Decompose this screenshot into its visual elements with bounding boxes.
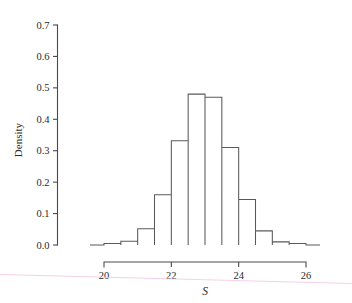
y-tick-label: 0.1 — [36, 208, 49, 219]
y-axis-title: Density — [12, 122, 24, 157]
x-tick-label: 20 — [99, 270, 110, 281]
x-tick-label: 24 — [233, 270, 244, 281]
x-axis-title: S — [202, 285, 208, 297]
y-tick-label: 0.2 — [36, 177, 49, 188]
x-axis-tick-labels: 20222426 — [99, 270, 312, 281]
y-tick-label: 0.0 — [36, 240, 49, 251]
histogram-bars — [90, 94, 320, 245]
y-axis-ticks — [53, 25, 58, 245]
x-axis-line — [104, 262, 306, 267]
x-tick-label: 22 — [166, 270, 177, 281]
y-tick-label: 0.5 — [36, 82, 49, 93]
y-tick-label: 0.7 — [36, 20, 49, 31]
y-tick-label: 0.3 — [36, 145, 49, 156]
x-axis-ticks — [171, 262, 238, 267]
y-axis-tick-labels: 0.00.10.20.30.40.50.60.7 — [36, 20, 50, 251]
y-tick-label: 0.6 — [36, 51, 49, 62]
y-tick-label: 0.4 — [36, 114, 50, 125]
x-tick-label: 26 — [301, 270, 312, 281]
